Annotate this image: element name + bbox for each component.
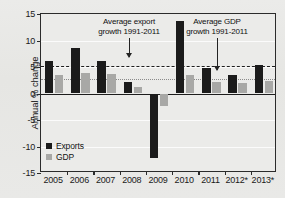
- bar-exports-2007: [97, 61, 106, 94]
- x-axis-tick-label: 2011: [201, 175, 220, 185]
- x-axis-tick: [67, 171, 68, 175]
- annotation-gdp-average: Average GDP growth 1991-2011: [176, 17, 258, 36]
- bar-gdp-2011: [212, 82, 221, 94]
- y-axis-tick-label: 10: [25, 36, 35, 46]
- y-axis-tick: [37, 67, 41, 68]
- x-axis-tick-label: 2013*: [252, 175, 275, 185]
- bar-exports-2006: [71, 48, 80, 94]
- y-axis-tick: [37, 147, 41, 148]
- chart-legend: Exports GDP: [46, 140, 84, 162]
- annotation-export-line1: Average export: [103, 17, 155, 26]
- annotation-export-average: Average export growth 1991-2011: [88, 17, 170, 36]
- bar-gdp-2007: [107, 74, 116, 94]
- x-axis-tick-label: 2007: [96, 175, 115, 185]
- bar-exports-2005: [45, 61, 54, 94]
- y-axis-title-container: Annual % change: [0, 13, 14, 172]
- bar-gdp-2013e: [265, 81, 274, 94]
- x-axis-tick-label: 2010: [175, 175, 194, 185]
- bar-gdp-2012e: [238, 83, 247, 94]
- bar-gdp-2005: [55, 75, 64, 94]
- y-axis-tick: [37, 173, 41, 174]
- y-axis-tick: [37, 41, 41, 42]
- x-axis-tick-label: 2009: [148, 175, 167, 185]
- y-axis-tick-label: 5: [30, 62, 35, 72]
- x-axis-tick: [172, 171, 173, 175]
- annotation-export-arrow: [129, 38, 130, 57]
- bar-gdp-2010: [186, 75, 195, 94]
- bar-chart: Annual % change 151050-5-10-15 200520062…: [0, 0, 285, 198]
- annotation-gdp-line1: Average GDP: [193, 17, 241, 26]
- legend-item-exports: Exports: [46, 140, 84, 151]
- bar-gdp-2008: [134, 87, 143, 94]
- x-axis-tick-label: 2012*: [225, 175, 248, 185]
- annotation-gdp-arrow: [217, 38, 218, 70]
- x-axis-tick: [198, 171, 199, 175]
- annotation-export-line2: growth 1991-2011: [98, 27, 160, 36]
- bar-exports-2012e: [228, 75, 237, 94]
- y-axis-tick-label: -10: [23, 142, 35, 152]
- legend-swatch-gdp-icon: [46, 154, 52, 160]
- bar-exports-2008: [124, 82, 133, 94]
- y-axis-tick-label: -5: [27, 115, 35, 125]
- legend-swatch-exports-icon: [46, 143, 52, 149]
- x-axis-tick: [93, 171, 94, 175]
- bar-exports-2009: [150, 94, 159, 159]
- bar-exports-2011: [202, 68, 211, 93]
- legend-label-exports: Exports: [56, 141, 84, 151]
- bar-exports-2013e: [255, 65, 264, 93]
- y-axis-tick: [37, 120, 41, 121]
- bar-gdp-2009: [160, 94, 169, 106]
- x-axis-tick: [146, 171, 147, 175]
- legend-label-gdp: GDP: [56, 152, 74, 162]
- x-axis-tick-label: 2008: [122, 175, 141, 185]
- y-axis-tick-label: 15: [25, 9, 35, 19]
- y-axis-tick-label: -15: [23, 168, 35, 178]
- x-axis-tick: [120, 171, 121, 175]
- y-axis-tick-label: 0: [30, 89, 35, 99]
- bar-gdp-2006: [81, 73, 90, 94]
- x-axis-tick-label: 2006: [70, 175, 89, 185]
- gridline: [41, 41, 275, 42]
- y-axis-tick: [37, 14, 41, 15]
- annotation-gdp-line2: growth 1991-2011: [186, 27, 248, 36]
- legend-item-gdp: GDP: [46, 151, 84, 162]
- x-axis-tick-label: 2005: [43, 175, 62, 185]
